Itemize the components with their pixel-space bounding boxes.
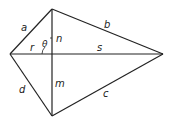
label-m: m	[55, 78, 65, 89]
side-d	[10, 54, 52, 116]
label-c: c	[103, 88, 109, 99]
side-b	[52, 9, 163, 54]
label-s: s	[97, 42, 102, 53]
label-r: r	[30, 42, 35, 53]
side-c	[52, 54, 163, 116]
label-n: n	[56, 33, 62, 44]
label-theta: θ	[42, 39, 48, 49]
kite-diagram: a b c d r s n m θ	[0, 0, 171, 125]
label-d: d	[19, 84, 26, 95]
label-b: b	[104, 19, 110, 30]
label-a: a	[21, 22, 27, 33]
